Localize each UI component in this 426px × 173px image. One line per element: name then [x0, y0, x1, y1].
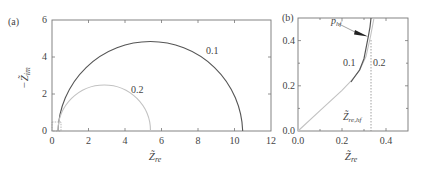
- panel-a-ytick-0: 0: [42, 125, 47, 136]
- figure: (a) 0 2 4 6 8 10 12 0: [0, 0, 426, 173]
- inset-box: [52, 122, 61, 131]
- panel-a-frame: [52, 20, 271, 131]
- phf-label: phf: [330, 15, 343, 28]
- panel-a-xtick-4: 4: [123, 135, 128, 146]
- panel-b-label-0.2: 0.2: [373, 57, 386, 68]
- panel-b-label: (b): [282, 12, 294, 24]
- panel-b: (b) 0.0 0.2 0.4 0.0 0.2: [282, 12, 408, 164]
- panel-a-xtick-2: 2: [86, 135, 91, 146]
- panel-a-ytick-4: 4: [42, 51, 47, 62]
- panel-a-label-0.2: 0.2: [131, 84, 144, 95]
- panel-a: (a) 0 2 4 6 8 10 12 0: [8, 14, 276, 164]
- panel-b-label-0.1: 0.1: [343, 57, 356, 68]
- panel-a-xtick-12: 12: [266, 135, 276, 146]
- panel-a-ytick-6: 6: [42, 14, 47, 25]
- zre-hf-label: Z̃re,hf: [343, 110, 362, 124]
- panel-b-ytick-0.2: 0.2: [283, 80, 296, 91]
- panel-b-xtick-0.4: 0.4: [380, 135, 393, 146]
- panel-a-ytick-2: 2: [42, 88, 47, 99]
- panel-b-xtick-0.2: 0.2: [336, 135, 349, 146]
- panel-a-xtick-10: 10: [230, 135, 240, 146]
- panel-a-xtick-6: 6: [159, 135, 164, 146]
- panel-b-ytick-0.4: 0.4: [283, 35, 296, 46]
- panel-a-xtick-8: 8: [196, 135, 201, 146]
- panel-b-ytick-0.0: 0.0: [283, 125, 296, 136]
- phf-arrow-icon: [354, 30, 368, 37]
- panel-a-ylabel: −Z̃im: [18, 67, 32, 89]
- panel-b-xlabel: Z̃re: [345, 150, 358, 164]
- panel-a-label: (a): [8, 16, 19, 28]
- panel-a-xlabel: Z̃re: [149, 150, 162, 164]
- panel-a-xtick-0: 0: [50, 135, 55, 146]
- panel-a-label-0.1: 0.1: [206, 45, 219, 56]
- panel-b-xticks: 0.0 0.2 0.4: [292, 18, 393, 146]
- panel-a-yticks: 0 2 4 6: [42, 14, 271, 136]
- panel-b-frame: [298, 18, 408, 131]
- panel-b-xtick-0.0: 0.0: [292, 135, 305, 146]
